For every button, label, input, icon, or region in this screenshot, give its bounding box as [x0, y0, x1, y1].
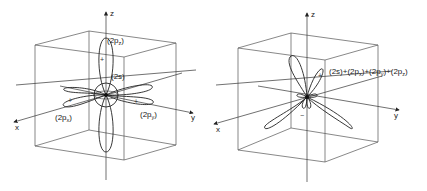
right-z-label: z	[311, 10, 315, 19]
label-2px: (2px)	[55, 113, 72, 123]
left-y-label: y	[191, 113, 195, 122]
label-2py: (2py)	[140, 110, 157, 120]
left-x-label: x	[15, 123, 19, 132]
hybrid-label: (2s)+(2px)+(2py)+(2pz)	[329, 67, 408, 77]
sign-px: +	[68, 97, 72, 104]
hybrid-lobe-upper-left	[289, 56, 307, 97]
sign-minor: −	[300, 112, 304, 119]
hybrid-lobe-lower-right	[307, 97, 352, 129]
sign-major: +	[318, 72, 322, 79]
label-2pz: (2pz)	[107, 36, 124, 46]
left-z-label: z	[110, 9, 114, 18]
right-x-label: x	[216, 125, 220, 134]
sign-pz: +	[100, 56, 104, 63]
2py-upper-right-lobe	[106, 85, 152, 95]
left-y-axis	[60, 86, 193, 113]
sign-py: +	[134, 98, 138, 105]
left-panel-unhybridized-orbitals: + + + z x y (2pz) (2s) (2px) (2py)	[14, 9, 196, 180]
right-panel-sp3-hybrid: + − z x y (2s)+(2px)+(2py)+(2pz)	[214, 10, 408, 182]
right-y-label: y	[394, 111, 398, 120]
label-2s: (2s)	[111, 72, 125, 81]
orbital-diagram: + + + z x y (2pz) (2s) (2px) (2py)	[0, 0, 427, 191]
